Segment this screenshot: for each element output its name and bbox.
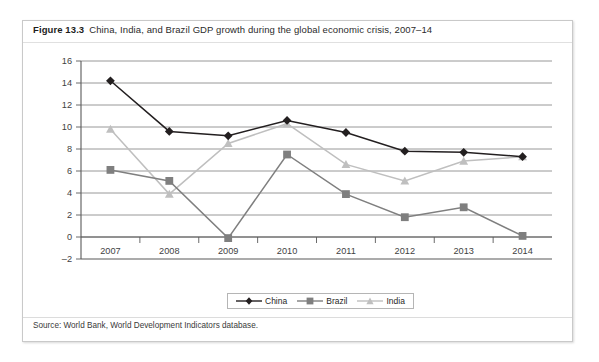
source-note: Source: World Bank, World Development In… [33,321,258,330]
data-point-diamond [400,147,409,156]
figure-caption: China, India, and Brazil GDP growth duri… [89,24,432,35]
legend-label-india: India [386,296,404,306]
data-point-square [401,213,409,221]
source-divider [23,317,572,318]
y-axis-tick-label: 6 [67,166,72,176]
legend-item-india[interactable]: India [357,296,404,306]
data-point-diamond [342,128,351,137]
y-axis-tick-label: 4 [67,188,72,198]
chart-legend: China Brazil India [227,293,414,309]
x-axis-tick-label: 2011 [336,246,356,256]
data-point-triangle [342,160,351,168]
figure-title: Figure 13.3China, India, and Brazil GDP … [23,21,572,41]
data-point-square [165,177,173,185]
y-axis-tick-label: 8 [67,144,72,154]
y-axis-tick-label: 2 [67,210,72,220]
chart-plot-area: –202468101214162007200820092010201120122… [23,45,574,297]
legend-marker-brazil-square-icon [297,296,323,306]
data-point-square [224,234,232,242]
x-axis-tick-label: 2010 [277,246,297,256]
x-axis-tick-label: 2013 [453,246,473,256]
y-axis-tick-label: 14 [62,78,72,88]
x-axis-tick-label: 2007 [100,246,120,256]
figure-number: Figure 13.3 [33,24,84,35]
y-axis-tick-label: 10 [62,122,72,132]
y-axis-tick-label: –2 [62,254,72,264]
series-china [106,76,527,161]
x-axis-tick-label: 2014 [512,246,532,256]
data-point-square [342,190,350,198]
legend-label-brazil: Brazil [326,296,347,306]
legend-item-brazil[interactable]: Brazil [297,296,347,306]
y-axis-tick-label: 0 [67,232,72,242]
data-point-triangle [106,125,115,133]
title-divider [23,42,572,43]
series-line [110,81,522,157]
data-point-square [283,151,291,159]
data-point-diamond [283,116,292,125]
data-point-diamond [224,131,233,140]
y-axis-tick-label: 12 [62,100,72,110]
legend-label-china: China [265,296,287,306]
figure-container: Figure 13.3China, India, and Brazil GDP … [22,20,573,342]
legend-item-china[interactable]: China [236,296,287,306]
x-axis-tick-label: 2009 [218,246,238,256]
data-point-square [519,232,527,240]
x-axis-tick-label: 2008 [159,246,179,256]
data-point-square [460,203,468,211]
x-axis-tick-label: 2012 [395,246,415,256]
y-axis-tick-label: 16 [62,56,72,66]
line-chart: –202468101214162007200820092010201120122… [23,45,574,297]
data-point-square [107,166,115,174]
legend-marker-india-triangle-icon [357,296,383,306]
legend-marker-china-diamond-icon [236,296,262,306]
